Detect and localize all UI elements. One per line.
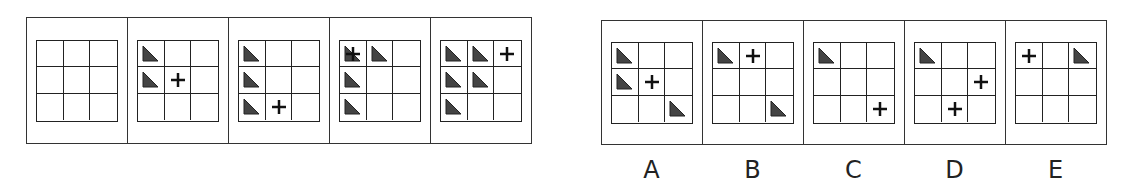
grid-cell (64, 41, 91, 68)
grid-cell (292, 41, 319, 68)
grid-3x3 (238, 40, 320, 122)
grid-cell (393, 67, 420, 94)
right-triangle-icon (919, 47, 936, 64)
grid-cell (942, 96, 969, 123)
grid-cell (1016, 43, 1043, 70)
grid-cell (639, 96, 666, 123)
answer-option-e[interactable] (1006, 21, 1106, 144)
grid-cell (867, 43, 894, 70)
grid-cell (968, 96, 995, 123)
grid-cell (1069, 69, 1096, 96)
grid-3x3 (813, 42, 895, 124)
right-triangle-icon (770, 100, 787, 117)
right-triangle-icon (616, 47, 633, 64)
answer-options (601, 20, 1107, 145)
grid-cell (639, 43, 666, 70)
grid-cell (494, 94, 521, 121)
right-triangle-icon (371, 45, 388, 62)
grid-cell (266, 94, 293, 121)
grid-cell (740, 43, 767, 70)
grid-cell (367, 41, 394, 68)
option-label-c: C (803, 156, 904, 184)
grid-cell (64, 94, 91, 121)
question-panel-2 (128, 18, 229, 143)
grid-cell (239, 67, 266, 94)
right-triangle-icon (243, 45, 260, 62)
question-panel-4 (330, 18, 431, 143)
answer-option-b[interactable] (703, 21, 804, 144)
grid-cell (1043, 69, 1070, 96)
grid-cell (37, 67, 64, 94)
grid-cell (814, 43, 841, 70)
grid-cell (766, 69, 793, 96)
right-triangle-icon (669, 100, 686, 117)
answer-option-d[interactable] (905, 21, 1006, 144)
grid-cell (740, 96, 767, 123)
grid-cell (266, 41, 293, 68)
grid-cell (867, 69, 894, 96)
grid-cell (740, 69, 767, 96)
grid-cell (165, 94, 192, 121)
answer-option-a[interactable] (602, 21, 703, 144)
grid-cell (766, 96, 793, 123)
grid-cell (468, 94, 495, 121)
plus-icon (1021, 48, 1037, 64)
right-triangle-icon (1073, 47, 1090, 64)
grid-cell (37, 94, 64, 121)
grid-3x3 (137, 40, 219, 122)
grid-3x3 (339, 40, 421, 122)
grid-cell (713, 69, 740, 96)
grid-cell (165, 67, 192, 94)
right-triangle-icon (344, 98, 361, 115)
grid-cell (90, 41, 117, 68)
grid-cell (1043, 96, 1070, 123)
grid-cell (968, 43, 995, 70)
right-triangle-icon (472, 71, 489, 88)
grid-cell (441, 94, 468, 121)
plus-icon (745, 48, 761, 64)
grid-cell (340, 41, 367, 68)
grid-cell (665, 96, 692, 123)
grid-cell (766, 43, 793, 70)
grid-cell (64, 67, 91, 94)
right-triangle-icon (243, 71, 260, 88)
right-triangle-icon (472, 45, 489, 62)
answer-labels: A B C D E (601, 156, 1106, 184)
grid-cell (138, 94, 165, 121)
question-panel-5 (431, 18, 531, 143)
grid-cell (1069, 43, 1096, 70)
grid-cell (713, 43, 740, 70)
right-triangle-icon (243, 98, 260, 115)
grid-cell (340, 94, 367, 121)
grid-cell (468, 67, 495, 94)
grid-cell (915, 96, 942, 123)
right-triangle-icon (818, 47, 835, 64)
grid-cell (292, 94, 319, 121)
grid-cell (713, 96, 740, 123)
right-triangle-icon (616, 73, 633, 90)
grid-3x3 (1015, 42, 1097, 124)
grid-cell (942, 69, 969, 96)
grid-3x3 (712, 42, 794, 124)
answer-option-c[interactable] (804, 21, 905, 144)
right-triangle-icon (445, 98, 462, 115)
grid-cell (138, 67, 165, 94)
option-label-a: A (601, 156, 702, 184)
grid-cell (90, 94, 117, 121)
plus-icon (271, 99, 287, 115)
grid-cell (292, 67, 319, 94)
plus-icon (644, 74, 660, 90)
grid-3x3 (914, 42, 996, 124)
grid-cell (942, 43, 969, 70)
plus-icon (973, 74, 989, 90)
grid-cell (612, 96, 639, 123)
grid-cell (90, 67, 117, 94)
grid-cell (814, 69, 841, 96)
right-triangle-icon (717, 47, 734, 64)
right-triangle-icon (445, 71, 462, 88)
grid-cell (393, 94, 420, 121)
grid-cell (814, 96, 841, 123)
grid-cell (239, 41, 266, 68)
plus-icon (499, 46, 515, 62)
grid-cell (612, 43, 639, 70)
